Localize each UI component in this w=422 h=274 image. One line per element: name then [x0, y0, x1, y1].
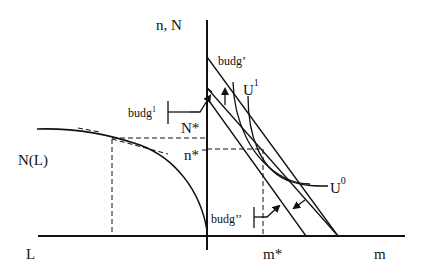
- N-star-label: N*: [181, 120, 199, 136]
- horizontal-axis-right-label: m: [374, 246, 386, 262]
- horizontal-axis-left-label: L: [26, 246, 35, 262]
- vertical-axis-label: n, N: [156, 17, 182, 33]
- production-curve: [37, 129, 207, 230]
- n-star-label: n*: [184, 147, 199, 163]
- tangent-dashed-lower: [112, 139, 168, 154]
- budget-upper-label: budg’: [218, 54, 246, 68]
- economic-diagram: n, N m L N(L) budg’ budg1 budg’’ U1 U0 N…: [0, 0, 422, 274]
- U1-label: U1: [243, 77, 259, 98]
- arrow-down-left: [294, 200, 305, 208]
- budget-line-upper: [207, 57, 338, 236]
- U0-label: U0: [330, 175, 346, 196]
- production-curve-label: N(L): [18, 152, 48, 169]
- m-star-label: m*: [263, 246, 282, 262]
- arrow-budg-lower: [261, 206, 279, 217]
- budget-lower-label: budg’’: [211, 212, 242, 226]
- budget-middle-label: budg1: [128, 105, 156, 120]
